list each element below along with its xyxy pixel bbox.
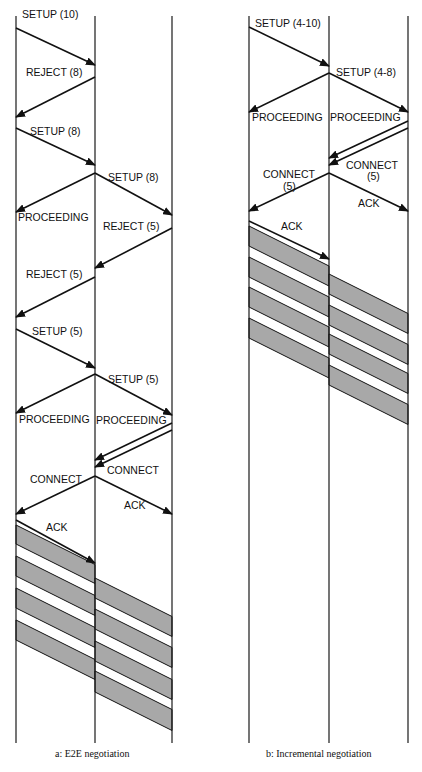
message-label: REJECT (5)	[103, 220, 159, 232]
message-label: ACK	[281, 220, 303, 232]
message-arrow	[16, 77, 95, 117]
message-label: (5)	[283, 180, 296, 192]
sequence-diagram: SETUP (10)REJECT (8)SETUP (8)SETUP (8)PR…	[0, 0, 422, 772]
message-arrow	[249, 27, 329, 66]
message-arrow	[329, 121, 408, 158]
message-label: ACK	[124, 499, 146, 511]
message-label: CONNECT	[107, 464, 160, 476]
message-label: PROCEEDING	[330, 111, 401, 123]
message-arrow	[249, 73, 329, 112]
message-label: ACK	[358, 197, 380, 209]
message-arrow	[95, 423, 172, 460]
message-arrow	[329, 73, 408, 112]
message-label: REJECT (5)	[26, 268, 82, 280]
message-label: SETUP (10)	[22, 8, 78, 20]
caption-a: a: E2E negotiation	[55, 748, 129, 759]
message-arrow	[95, 430, 172, 467]
panel-incremental-negotiation: SETUP (4-10)SETUP (4-8)PROCEEDINGPROCEED…	[249, 16, 408, 743]
message-label: (5)	[367, 170, 380, 182]
message-label: PROCEEDING	[252, 111, 323, 123]
message-label: SETUP (5)	[108, 373, 159, 385]
message-arrow	[16, 277, 95, 317]
message-label: PROCEEDING	[96, 414, 167, 426]
message-label: PROCEEDING	[18, 211, 89, 223]
message-label: ACK	[46, 521, 68, 533]
message-label: SETUP (4-10)	[255, 17, 321, 29]
message-arrow	[16, 374, 95, 413]
message-label: SETUP (8)	[30, 125, 81, 137]
message-arrow	[95, 228, 172, 268]
message-label: PROCEEDING	[19, 413, 90, 425]
caption-b: b: Incremental negotiation	[266, 748, 372, 759]
message-label: SETUP (4-8)	[336, 66, 396, 78]
message-label: SETUP (8)	[108, 171, 159, 183]
message-label: REJECT (8)	[26, 66, 82, 78]
panel-e2e-negotiation: SETUP (10)REJECT (8)SETUP (8)SETUP (8)PR…	[16, 8, 172, 743]
message-label: SETUP (5)	[32, 325, 83, 337]
message-arrow	[16, 28, 95, 65]
message-arrow	[16, 173, 95, 212]
message-label: CONNECT	[30, 473, 83, 485]
message-label: CONNECT	[263, 168, 316, 180]
